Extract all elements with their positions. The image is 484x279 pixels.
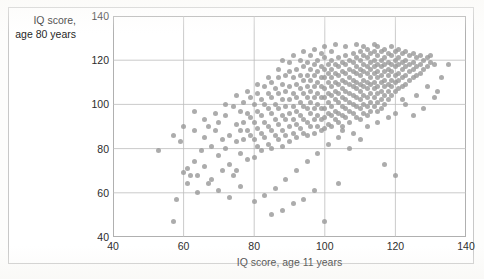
- x-axis-label: IQ score, age 11 years: [113, 256, 466, 268]
- scatter-point: [432, 62, 437, 67]
- scatter-point: [269, 80, 274, 85]
- scatter-point: [287, 139, 292, 144]
- scatter-point: [269, 212, 274, 217]
- scatter-point: [255, 82, 260, 87]
- scatter-point: [298, 58, 303, 63]
- scatter-point: [178, 139, 183, 144]
- scatter-point: [287, 97, 292, 102]
- scatter-point: [185, 181, 190, 186]
- scatter-point: [291, 201, 296, 206]
- x-tick-100: 100: [305, 241, 345, 252]
- scatter-point: [414, 93, 419, 98]
- scatter-point: [291, 75, 296, 80]
- scatter-point: [283, 177, 288, 182]
- scatter-point: [421, 106, 426, 111]
- scatter-point: [283, 104, 288, 109]
- scatter-point: [156, 148, 161, 153]
- scatter-point: [333, 42, 338, 47]
- scatter-point: [223, 102, 228, 107]
- scatter-point: [301, 78, 306, 83]
- scatter-point: [287, 69, 292, 74]
- scatter-point: [312, 188, 317, 193]
- scatter-point: [202, 117, 207, 122]
- y-axis-label: IQ score, age 80 years: [14, 14, 76, 42]
- scatter-point: [192, 128, 197, 133]
- scatter-point: [252, 155, 257, 160]
- scatter-point: [322, 115, 327, 120]
- scatter-point: [195, 190, 200, 195]
- y-axis-tick-labels: 406080100120140: [71, 0, 109, 279]
- scatter-point: [276, 67, 281, 72]
- scatter-point: [195, 173, 200, 178]
- scatter-point: [343, 44, 348, 49]
- scatter-point: [202, 135, 207, 140]
- scatter-point: [389, 93, 394, 98]
- scatter-point: [276, 75, 281, 80]
- scatter-point: [283, 73, 288, 78]
- scatter-point: [206, 181, 211, 186]
- scatter-point: [291, 53, 296, 58]
- scatter-point: [308, 67, 313, 72]
- scatter-point: [216, 188, 221, 193]
- scatter-point: [269, 146, 274, 151]
- scatter-point: [294, 67, 299, 72]
- scatter-point: [315, 69, 320, 74]
- scatter-point: [386, 97, 391, 102]
- scatter-point: [241, 137, 246, 142]
- scatter-point: [305, 133, 310, 138]
- scatter-point: [287, 84, 292, 89]
- scatter-point: [188, 173, 193, 178]
- scatter-point: [425, 64, 430, 69]
- scatter-point: [213, 111, 218, 116]
- scatter-point: [259, 113, 264, 118]
- scatter-point: [238, 184, 243, 189]
- scatter-point: [403, 82, 408, 87]
- scatter-point: [280, 208, 285, 213]
- scatter-point: [319, 51, 324, 56]
- scatter-point: [174, 197, 179, 202]
- scatter-point: [262, 193, 267, 198]
- scatter-point: [312, 95, 317, 100]
- scatter-point: [439, 75, 444, 80]
- scatter-point: [336, 135, 341, 140]
- scatter-point: [432, 95, 437, 100]
- scatter-point: [255, 91, 260, 96]
- scatter-point: [294, 168, 299, 173]
- scatter-point: [234, 139, 239, 144]
- scatter-point: [234, 122, 239, 127]
- scatter-point: [280, 97, 285, 102]
- scatter-point: [209, 144, 214, 149]
- scatter-point: [276, 137, 281, 142]
- scatter-point: [241, 100, 246, 105]
- scatter-point: [315, 151, 320, 156]
- scatter-point: [252, 199, 257, 204]
- scatter-point: [315, 58, 320, 63]
- scatter-point: [283, 133, 288, 138]
- scatter-point: [283, 89, 288, 94]
- scatter-point: [382, 102, 387, 107]
- scatter-point: [252, 137, 257, 142]
- scatter-point: [347, 146, 352, 151]
- scatter-point: [273, 186, 278, 191]
- y-tick-140: 140: [73, 11, 109, 22]
- scatter-point: [322, 44, 327, 49]
- scatter-point: [428, 53, 433, 58]
- scatter-point: [301, 197, 306, 202]
- scatter-point: [280, 144, 285, 149]
- x-tick-120: 120: [375, 241, 415, 252]
- x-tick-80: 80: [234, 241, 274, 252]
- scatter-point: [382, 162, 387, 167]
- scatter-point: [252, 120, 257, 125]
- scatter-point: [294, 135, 299, 140]
- scatter-point: [245, 89, 250, 94]
- scatter-point: [238, 151, 243, 156]
- scatter-point: [262, 135, 267, 140]
- scatter-points-layer: [113, 16, 466, 237]
- scatter-point: [216, 153, 221, 158]
- scatter-point: [372, 42, 377, 47]
- y-axis-label-line1: IQ score,: [14, 14, 76, 28]
- scatter-point: [358, 117, 363, 122]
- scatter-point: [213, 128, 218, 133]
- scatter-point: [308, 124, 313, 129]
- scatter-point: [393, 111, 398, 116]
